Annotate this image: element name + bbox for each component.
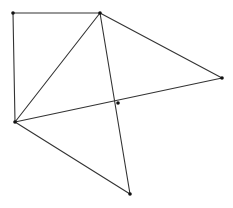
point-C bbox=[220, 76, 224, 80]
segment-BE bbox=[15, 13, 100, 122]
segment-EF bbox=[15, 122, 130, 194]
segment-EC bbox=[15, 78, 222, 122]
geometry-diagram bbox=[0, 0, 233, 208]
points-layer bbox=[11, 11, 224, 196]
segment-BC bbox=[100, 13, 222, 78]
point-D bbox=[116, 101, 120, 105]
point-B bbox=[98, 11, 102, 15]
point-A bbox=[11, 11, 15, 15]
point-F bbox=[128, 192, 132, 196]
point-E bbox=[13, 120, 17, 124]
segment-AE bbox=[13, 13, 15, 122]
